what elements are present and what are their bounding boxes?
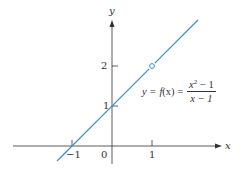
x-tick-label-minus-1: −1 xyxy=(66,150,81,160)
graph-line-lower xyxy=(57,69,149,161)
y-axis-label: y xyxy=(109,6,115,16)
y-tick-label-1: 1 xyxy=(103,101,109,111)
y-ticks xyxy=(112,66,118,106)
x-axis xyxy=(13,144,222,149)
x-tick-label-1: 1 xyxy=(149,150,155,160)
y-axis xyxy=(110,20,115,164)
fraction-numerator: x2 − 1 xyxy=(187,79,216,92)
x-axis-label: x xyxy=(225,141,231,151)
equation-fraction: x2 − 1 x − 1 xyxy=(187,79,216,104)
function-equation: y = f (x) = x2 − 1 x − 1 xyxy=(142,79,216,104)
x-axis-arrow-icon xyxy=(215,144,222,149)
fraction-denominator: x − 1 xyxy=(188,92,214,104)
numerator-rest: − 1 xyxy=(197,79,213,90)
x-tick-label-0: 0 xyxy=(101,150,107,160)
y-tick-label-2: 2 xyxy=(101,61,107,71)
y-axis-arrow-icon xyxy=(110,20,115,27)
equation-arg: (x) = xyxy=(162,86,183,97)
graph-line-upper xyxy=(155,20,198,63)
equation-lhs: y = xyxy=(142,86,156,97)
hole-open-circle-icon xyxy=(150,64,155,69)
